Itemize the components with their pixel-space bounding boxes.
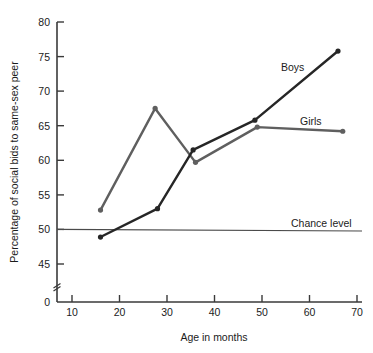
y-tick-label-65: 65: [38, 120, 50, 132]
data-point-boys-1: [155, 206, 160, 211]
series-label-girls: Girls: [300, 115, 322, 127]
x-tick-label-20: 20: [114, 306, 126, 318]
y-tick-labels: 80 75 70 65 60 55 50 45 0: [38, 16, 50, 308]
y-tick-label-55: 55: [38, 189, 50, 201]
y-tick-label-45: 45: [38, 258, 50, 270]
data-point-girls-2: [193, 160, 198, 165]
series-label-boys: Boys: [281, 61, 304, 73]
x-tick-label-30: 30: [161, 306, 173, 318]
data-point-girls-4: [340, 129, 345, 134]
y-tick-label-50: 50: [38, 223, 50, 235]
data-point-boys-3: [252, 118, 257, 123]
y-axis-title: Percentage of social bids to same-sex pe…: [8, 61, 20, 263]
y-tick-label-0: 0: [44, 296, 50, 308]
y-tick-label-60: 60: [38, 154, 50, 166]
chart-svg: 80 75 70 65 60 55 50 45 0 10 20 30 40 50: [0, 0, 373, 353]
x-tick-labels: 10 20 30 40 50 60 70: [66, 306, 363, 318]
series-points-boys: [98, 48, 341, 239]
x-tick-label-70: 70: [351, 306, 363, 318]
y-axis-ticks: [57, 22, 64, 264]
data-point-boys-2: [191, 147, 196, 152]
data-point-girls-0: [98, 207, 103, 212]
y-tick-label-70: 70: [38, 85, 50, 97]
data-point-boys-4: [335, 48, 340, 53]
x-tick-label-60: 60: [304, 306, 316, 318]
x-axis-title: Age in months: [180, 331, 247, 343]
x-tick-label-10: 10: [66, 306, 78, 318]
x-tick-label-40: 40: [209, 306, 221, 318]
chance-level-line: [57, 229, 362, 231]
x-tick-label-50: 50: [256, 306, 268, 318]
data-point-boys-0: [98, 234, 103, 239]
data-point-girls-3: [255, 125, 260, 130]
y-tick-label-75: 75: [38, 51, 50, 63]
chance-level-label: Chance level: [291, 217, 352, 229]
x-axis-ticks: [72, 295, 357, 302]
chart-figure: 80 75 70 65 60 55 50 45 0 10 20 30 40 50: [0, 0, 373, 353]
data-point-girls-1: [153, 106, 158, 111]
y-tick-label-80: 80: [38, 16, 50, 28]
